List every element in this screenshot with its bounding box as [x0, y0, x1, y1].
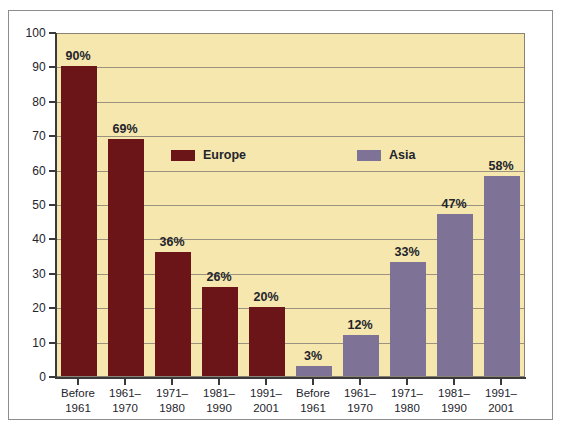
x-axis-label-line2: 2001 [485, 401, 517, 416]
bar-value-label: 12% [347, 318, 372, 332]
bar-asia-3[interactable] [437, 214, 473, 376]
x-axis-tick-mark [500, 379, 502, 385]
y-axis-tick-mark [49, 101, 56, 103]
y-axis-tick-mark [49, 342, 56, 344]
y-axis-tick-label: 0 [2, 370, 46, 384]
x-axis-tick-mark [453, 379, 455, 385]
x-axis-tick-label: 1971–1980 [391, 386, 423, 416]
bar-europe-1[interactable] [108, 139, 144, 376]
x-axis-label-line1: Before [61, 386, 95, 401]
x-axis-tick-label: Before1961 [296, 386, 330, 416]
x-axis-label-line1: 1981– [438, 386, 470, 401]
y-axis-tick-mark [49, 170, 56, 172]
bar-value-label: 90% [65, 49, 90, 63]
bar-value-label: 69% [112, 122, 137, 136]
x-axis-label-line1: 1991– [250, 386, 282, 401]
gridline [57, 102, 524, 103]
y-axis-tick-mark [49, 273, 56, 275]
y-axis-tick-label: 60 [2, 164, 46, 178]
x-axis-tick-mark [218, 379, 220, 385]
bar-value-label: 36% [159, 235, 184, 249]
y-axis-tick-label: 20 [2, 301, 46, 315]
bar-value-label: 26% [206, 270, 231, 284]
x-axis-tick-label: 1981–1990 [438, 386, 470, 416]
x-axis-label-line1: 1981– [203, 386, 235, 401]
x-axis-label-line1: 1971– [156, 386, 188, 401]
x-axis-tick-label: 1971–1980 [156, 386, 188, 416]
x-axis-label-line2: 1980 [391, 401, 423, 416]
x-axis-label-line2: 1990 [438, 401, 470, 416]
bar-asia-1[interactable] [343, 335, 379, 376]
bar-value-label: 33% [394, 245, 419, 259]
gridline [57, 67, 524, 68]
y-axis-tick-labels: 0102030405060708090100 [0, 0, 46, 438]
y-axis-tick-label: 70 [2, 129, 46, 143]
bar-europe-0[interactable] [61, 66, 97, 376]
y-axis-tick-label: 10 [2, 336, 46, 350]
bar-value-label: 20% [253, 290, 278, 304]
y-axis-tick-mark [49, 135, 56, 137]
x-axis-tick-mark [312, 379, 314, 385]
x-axis-label-line1: Before [296, 386, 330, 401]
bar-europe-4[interactable] [249, 307, 285, 376]
x-axis-tick-label: 1961–1970 [344, 386, 376, 416]
bar-asia-4[interactable] [484, 176, 520, 376]
x-axis-tick-label: 1961–1970 [109, 386, 141, 416]
x-axis-tick-mark [406, 379, 408, 385]
y-axis-tick-mark [49, 66, 56, 68]
y-axis-tick-mark [49, 32, 56, 34]
bar-asia-2[interactable] [390, 262, 426, 376]
bar-value-label: 3% [304, 349, 322, 363]
x-axis-label-line1: 1971– [391, 386, 423, 401]
y-axis-tick-mark [49, 204, 56, 206]
bar-value-label: 47% [441, 197, 466, 211]
x-axis-tick-mark [171, 379, 173, 385]
x-axis-tick-mark [77, 379, 79, 385]
x-axis-label-line2: 1961 [296, 401, 330, 416]
y-axis-tick-mark [49, 376, 56, 378]
x-axis-label-line1: 1961– [109, 386, 141, 401]
x-axis-label-line2: 1980 [156, 401, 188, 416]
gridline [57, 136, 524, 137]
y-axis-tick-label: 80 [2, 95, 46, 109]
x-axis-label-line2: 1961 [61, 401, 95, 416]
bar-asia-0[interactable] [296, 366, 332, 376]
x-axis-label-line2: 1970 [109, 401, 141, 416]
y-axis-tick-label: 30 [2, 267, 46, 281]
x-axis-tick-label: 1981–1990 [203, 386, 235, 416]
x-axis-tick-label: 1991–2001 [485, 386, 517, 416]
x-axis-tick-mark [265, 379, 267, 385]
x-axis-label-line2: 1990 [203, 401, 235, 416]
y-axis-tick-label: 40 [2, 232, 46, 246]
x-axis-tick-mark [359, 379, 361, 385]
bar-europe-2[interactable] [155, 252, 191, 376]
x-axis-label-line1: 1961– [344, 386, 376, 401]
x-axis-tick-mark [124, 379, 126, 385]
x-axis-tick-label: 1991–2001 [250, 386, 282, 416]
y-axis-tick-mark [49, 307, 56, 309]
bar-europe-3[interactable] [202, 287, 238, 376]
bar-value-label: 58% [488, 159, 513, 173]
x-axis-label-line1: 1991– [485, 386, 517, 401]
y-axis-tick-label: 50 [2, 198, 46, 212]
x-axis-tick-label: Before1961 [61, 386, 95, 416]
x-axis-label-line2: 2001 [250, 401, 282, 416]
bar-chart-figure: 0102030405060708090100 Before19611961–19… [0, 0, 563, 438]
y-axis-tick-label: 100 [2, 26, 46, 40]
gridline [57, 33, 524, 34]
x-axis-label-line2: 1970 [344, 401, 376, 416]
y-axis-tick-label: 90 [2, 60, 46, 74]
y-axis-tick-mark [49, 238, 56, 240]
